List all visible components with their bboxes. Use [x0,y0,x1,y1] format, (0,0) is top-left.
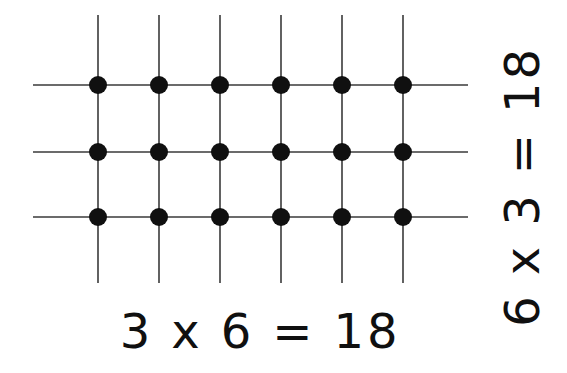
array-dot-r3-c6 [394,208,412,226]
array-dot-r3-c1 [89,208,107,226]
vertical-grid-lines [98,15,403,283]
array-dot-r2-c6 [394,143,412,161]
array-dot-r3-c5 [333,208,351,226]
equation-right: 6 x 3 = 18 [492,0,552,373]
array-dot-r2-c5 [333,143,351,161]
array-dot-r1-c5 [333,76,351,94]
array-dot-r1-c3 [211,76,229,94]
array-dot-r2-c3 [211,143,229,161]
array-dot-r1-c6 [394,76,412,94]
equation-bottom: 3 x 6 = 18 [0,307,520,355]
array-dot-r1-c2 [150,76,168,94]
array-dot-r3-c4 [272,208,290,226]
array-dot-r3-c3 [211,208,229,226]
array-dot-r2-c1 [89,143,107,161]
figure-canvas: 3 x 6 = 18 6 x 3 = 18 [0,0,567,373]
array-dot-r2-c4 [272,143,290,161]
array-dot-r3-c2 [150,208,168,226]
array-dot-r1-c4 [272,76,290,94]
array-dot-r2-c2 [150,143,168,161]
array-dot-r1-c1 [89,76,107,94]
array-dots [89,76,412,226]
